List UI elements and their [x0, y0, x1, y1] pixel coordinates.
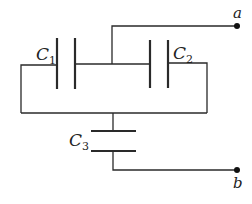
capacitor-c2: C2: [150, 40, 193, 88]
parallel-branch: [21, 63, 207, 113]
wire-to-b: [113, 151, 237, 170]
terminal-a: a: [233, 4, 242, 29]
terminal-a-dot: [234, 23, 240, 29]
c1-label: C1: [36, 44, 56, 67]
capacitor-c1: C1: [36, 38, 75, 89]
wire-c1-left: [21, 65, 57, 113]
terminal-b: b: [233, 167, 243, 192]
terminal-b-label: b: [233, 174, 243, 192]
terminal-a-label: a: [233, 4, 242, 22]
wire-c2-right: [168, 63, 207, 113]
circuit-diagram: C1 C2 a C3 b: [0, 0, 252, 204]
terminal-b-dot: [234, 167, 240, 173]
c3-label: C3: [69, 130, 89, 153]
capacitor-c3: C3: [69, 113, 136, 153]
c2-label: C2: [173, 43, 193, 66]
